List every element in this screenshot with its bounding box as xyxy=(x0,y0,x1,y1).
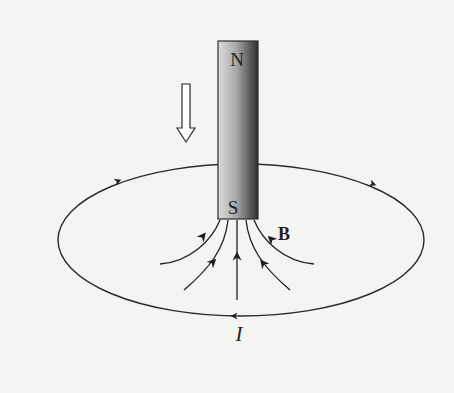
field-label-b: B xyxy=(278,224,290,244)
field-line-outer-left xyxy=(160,220,220,264)
north-pole-label: N xyxy=(230,49,244,70)
field-lines xyxy=(160,220,314,300)
current-label-i: I xyxy=(235,322,244,346)
bar-magnet: N S xyxy=(218,41,258,219)
down-arrow-icon xyxy=(177,84,195,142)
south-pole-label: S xyxy=(228,197,239,218)
magnet-loop-diagram: N S B I xyxy=(0,0,454,393)
figure-canvas: N S B I xyxy=(0,0,454,393)
field-line-inner-left xyxy=(184,220,228,290)
